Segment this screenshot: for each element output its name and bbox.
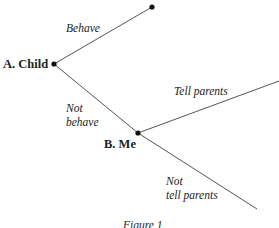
- edge-label-not-behave-2: behave: [66, 115, 99, 129]
- game-tree-diagram: A. Child B. Me Behave Not behave Tell pa…: [0, 0, 279, 228]
- edge-label-not-tell-1: Not: [166, 174, 183, 188]
- edge-label-not-behave-1: Not: [66, 101, 83, 115]
- node-terminal-dot: [149, 4, 154, 9]
- edge-label-not-tell-2: tell parents: [166, 188, 218, 202]
- node-a-dot: [51, 61, 56, 66]
- node-b-label: B. Me: [104, 137, 136, 151]
- edge-behave: [54, 7, 152, 64]
- edge-label-tell-parents: Tell parents: [174, 84, 228, 98]
- edge-label-behave: Behave: [66, 21, 100, 35]
- node-a-label: A. Child: [3, 57, 48, 71]
- figure-caption: Figure 1: [123, 218, 163, 228]
- tree-edges: [0, 0, 279, 228]
- node-b-dot: [135, 130, 140, 135]
